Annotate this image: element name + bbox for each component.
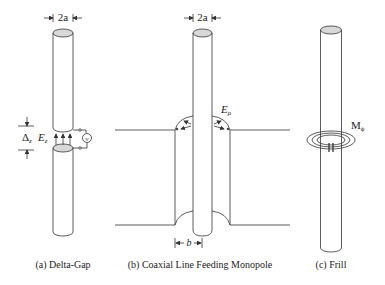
dimension-label-a: 2a	[58, 11, 69, 23]
field-label-ez: Ez	[37, 131, 48, 145]
gap-width-label: Δz	[22, 131, 32, 145]
dimension-label-b: 2a	[197, 11, 208, 23]
magnetic-frill-rings	[307, 131, 355, 152]
panel-coaxial-feed	[115, 14, 290, 248]
field-label-erho: Eρ	[220, 103, 232, 117]
voltage-source-label: V	[85, 137, 89, 142]
panel-delta-gap	[18, 14, 92, 236]
outer-radius-label: b	[187, 237, 192, 248]
panel-frill	[307, 26, 355, 252]
caption-delta-gap: (a) Delta-Gap	[35, 259, 90, 271]
caption-frill: (c) Frill	[316, 259, 347, 271]
caption-coaxial-feed: (b) Coaxial Line Feeding Monopole	[128, 259, 273, 271]
current-label-mphi: Mϕ	[351, 119, 365, 133]
antenna-feed-models-diagram: 2a V Δz Ez (a) Delta-Gap	[0, 0, 385, 285]
